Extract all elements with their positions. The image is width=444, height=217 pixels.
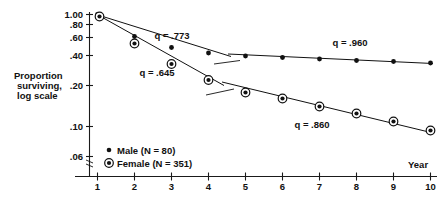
annotation-q-female-late: q = .860 — [294, 119, 329, 130]
legend-label-female: Female (N = 351) — [117, 158, 192, 169]
legend-marker-male-icon — [107, 148, 112, 153]
y-axis-title: Proportion surviving, log scale — [14, 70, 63, 101]
x-axis-title: Year — [408, 159, 428, 170]
female-point-year-10 — [426, 126, 435, 135]
legend-label-male: Male (N = 80) — [117, 145, 175, 156]
x-tick-label-2: 2 — [132, 181, 137, 192]
fit-line-male-late — [228, 54, 433, 64]
male-point-year-3 — [169, 45, 174, 50]
annotation-q-female-early: q = .645 — [139, 67, 175, 78]
female-point-year-2 — [130, 39, 139, 48]
leader-female-join — [206, 89, 234, 95]
male-point-year-6 — [280, 55, 285, 60]
female-point-year-5 — [241, 88, 250, 97]
male-point-year-2 — [132, 34, 137, 39]
y-tick-label-0.10: .10 — [70, 121, 83, 132]
female-point-year-1 — [95, 12, 104, 21]
annotation-q-male-late: q = .960 — [332, 37, 367, 48]
male-point-year-7 — [317, 57, 322, 62]
y-tick-label-0.60: .60 — [70, 32, 83, 43]
y-tick-label-0.40: .40 — [70, 50, 83, 61]
x-tick-label-7: 7 — [317, 181, 322, 192]
x-tick-label-1: 1 — [95, 181, 101, 192]
leader-male-join — [214, 61, 240, 65]
female-point-year-9 — [389, 117, 398, 126]
y-tick-label-0.06: .06 — [70, 151, 83, 162]
series-male-points — [95, 12, 433, 65]
chart-canvas: 1.00 .80 .60 .40 .20 .10 .06 1 2 3 4 5 6… — [0, 0, 444, 217]
x-tick-label-8: 8 — [354, 181, 359, 192]
x-tick-label-6: 6 — [280, 181, 285, 192]
y-axis — [86, 12, 93, 176]
male-point-year-5 — [243, 54, 248, 59]
y-tick-label-0.80: .80 — [70, 19, 83, 30]
legend-entry-male: Male (N = 80) — [107, 145, 176, 156]
x-tick-label-5: 5 — [243, 181, 249, 192]
female-point-year-7 — [315, 102, 324, 111]
male-point-year-4 — [206, 51, 211, 56]
x-tick-label-10: 10 — [425, 181, 436, 192]
legend-entry-female: Female (N = 351) — [105, 158, 193, 169]
x-tick-label-3: 3 — [169, 181, 174, 192]
x-tick-label-4: 4 — [206, 181, 212, 192]
male-point-year-8 — [354, 58, 359, 63]
chart-legend: Male (N = 80) Female (N = 351) — [105, 145, 193, 169]
x-tick-label-9: 9 — [391, 181, 396, 192]
female-point-year-6 — [278, 94, 287, 103]
male-point-year-9 — [391, 59, 396, 64]
y-axis-title-line-3: log scale — [17, 90, 58, 101]
female-point-year-4 — [204, 76, 213, 85]
y-tick-label-0.20: .20 — [70, 80, 83, 91]
survival-curve-figure: 1.00 .80 .60 .40 .20 .10 .06 1 2 3 4 5 6… — [0, 0, 444, 217]
male-point-year-10 — [428, 61, 433, 66]
annotation-q-male-early: q = .773 — [154, 30, 189, 41]
x-axis — [75, 173, 437, 181]
female-point-year-8 — [352, 109, 361, 118]
